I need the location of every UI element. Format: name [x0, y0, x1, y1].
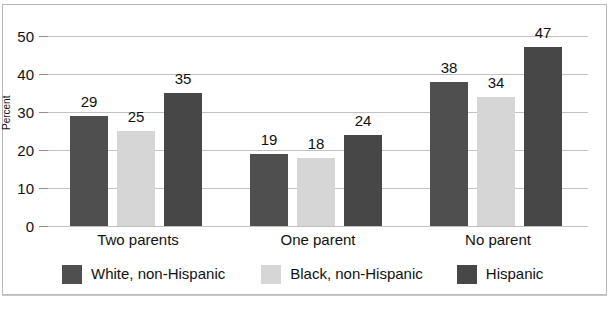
bar-label-one-parent-white: 19: [250, 132, 288, 147]
bar-groups: 29 25 35 Two parents 19 18 24 One parent: [48, 36, 588, 226]
category-label-one-parent: One parent: [238, 232, 398, 248]
tick-50: [39, 36, 48, 37]
bar-group-one-parent: 19 18 24 One parent: [250, 36, 386, 226]
y-tick-label-20: 20: [0, 143, 34, 158]
bar-label-two-parents-hispanic: 35: [164, 71, 202, 86]
bar-label-one-parent-black: 18: [297, 136, 335, 151]
tick-20: [39, 150, 48, 151]
bar-label-no-parent-black: 34: [477, 75, 515, 90]
y-tick-label-10: 10: [0, 181, 34, 196]
y-tick-label-0: 0: [0, 219, 34, 234]
legend-label-white-non-hispanic: White, non-Hispanic: [91, 266, 225, 282]
legend-item-hispanic[interactable]: Hispanic: [457, 265, 544, 284]
category-label-two-parents: Two parents: [58, 232, 218, 248]
bar-no-parent-hispanic[interactable]: [524, 47, 562, 226]
y-tick-label-40: 40: [0, 67, 34, 82]
bar-group-no-parent: 38 34 47 No parent: [430, 36, 566, 226]
bar-one-parent-hispanic[interactable]: [344, 135, 382, 226]
chart-figure: Percent 50 40 30 20 10 0 29 25 35: [0, 0, 612, 314]
bar-no-parent-black[interactable]: [477, 97, 515, 226]
legend-divider: [2, 295, 607, 296]
axis-baseline: [48, 226, 588, 227]
bar-label-no-parent-white: 38: [430, 60, 468, 75]
y-tick-label-50: 50: [0, 29, 34, 44]
legend-label-black-non-hispanic: Black, non-Hispanic: [290, 266, 423, 282]
y-tick-label-30: 30: [0, 105, 34, 120]
bar-one-parent-black[interactable]: [297, 158, 335, 226]
tick-0: [39, 226, 48, 227]
category-label-no-parent: No parent: [418, 232, 578, 248]
legend-item-black-non-hispanic[interactable]: Black, non-Hispanic: [261, 265, 423, 284]
legend-swatch-icon-hispanic: [457, 265, 477, 284]
plot-area: Percent 50 40 30 20 10 0 29 25 35: [48, 36, 588, 226]
legend-item-white-non-hispanic[interactable]: White, non-Hispanic: [62, 265, 225, 284]
bar-no-parent-white[interactable]: [430, 82, 468, 226]
legend-swatch-icon-black-non-hispanic: [261, 265, 281, 284]
bar-label-one-parent-hispanic: 24: [344, 113, 382, 128]
bar-one-parent-white[interactable]: [250, 154, 288, 226]
legend-swatch-icon-white-non-hispanic: [62, 265, 82, 284]
bar-label-two-parents-white: 29: [70, 94, 108, 109]
bar-two-parents-black[interactable]: [117, 131, 155, 226]
tick-10: [39, 188, 48, 189]
legend-label-hispanic: Hispanic: [486, 266, 544, 282]
bar-two-parents-white[interactable]: [70, 116, 108, 226]
tick-30: [39, 112, 48, 113]
bar-two-parents-hispanic[interactable]: [164, 93, 202, 226]
bar-label-two-parents-black: 25: [117, 109, 155, 124]
tick-40: [39, 74, 48, 75]
bar-group-two-parents: 29 25 35 Two parents: [70, 36, 206, 226]
chart-legend: White, non-Hispanic Black, non-Hispanic …: [48, 262, 588, 286]
bar-label-no-parent-hispanic: 47: [524, 25, 562, 40]
